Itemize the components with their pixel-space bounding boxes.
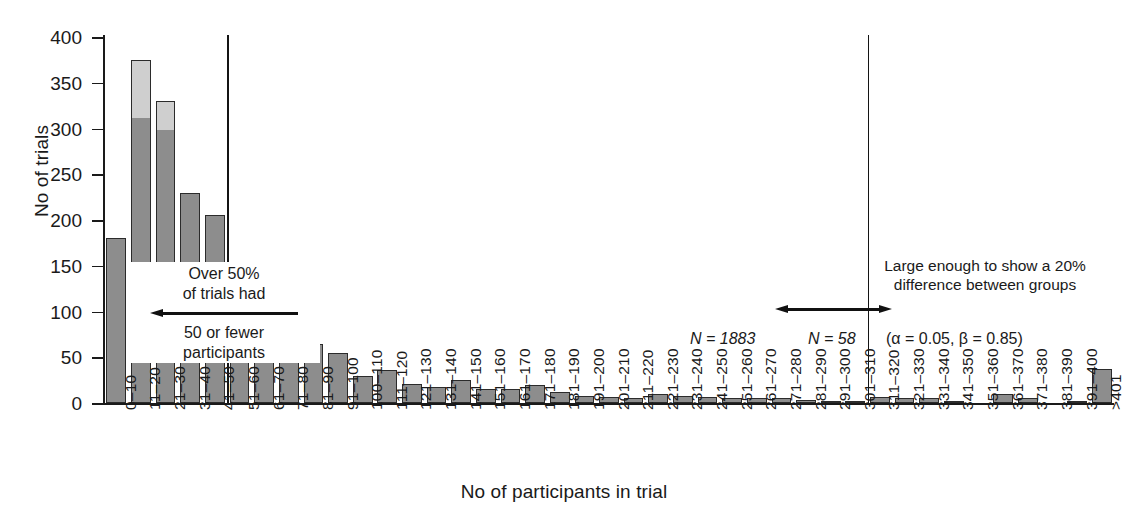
chart-figure: No of trials No of participants in trial…	[0, 0, 1128, 515]
y-tick-label-200: 200	[0, 211, 82, 230]
x-tick-label-271–280: 271–280	[787, 348, 805, 410]
left-sample-size-label: N = 1883	[690, 330, 755, 348]
x-tick-label-281–290: 281–290	[812, 348, 830, 410]
y-tick-200	[92, 220, 104, 222]
x-tick-label-11–20: 11–20	[146, 367, 164, 410]
bar-cap-11–20	[132, 61, 150, 118]
x-tick-label-301–310: 301–310	[861, 348, 879, 410]
y-tick-300	[92, 129, 104, 131]
x-tick-label-151–160: 151–160	[491, 348, 509, 410]
y-tick-400	[92, 37, 104, 39]
left-annotation-callout: Over 50% of trials had 50 or fewer parti…	[128, 262, 320, 363]
x-tick-label-131–140: 131–140	[442, 348, 460, 410]
y-tick-label-250: 250	[0, 165, 82, 184]
y-tick-50	[92, 357, 104, 359]
x-axis-title: No of participants in trial	[0, 481, 1128, 503]
x-tick-label-91–100: 91–100	[344, 357, 362, 410]
y-tick-label-100: 100	[0, 303, 82, 322]
x-tick-label-121–130: 121–130	[417, 348, 435, 410]
x-tick-label-371–380: 371–380	[1033, 348, 1051, 410]
x-tick-label-341–350: 341–350	[959, 348, 977, 410]
x-tick-label-201–210: 201–210	[615, 348, 633, 410]
x-tick-label-171–180: 171–180	[541, 348, 559, 410]
x-tick-label-391–400: 391–400	[1083, 348, 1101, 410]
right-range-arrow-icon	[808, 305, 892, 314]
arrow-shaft	[808, 308, 881, 311]
bar-cap-21–30	[157, 102, 175, 129]
y-tick-250	[92, 174, 104, 176]
arrow-shaft	[162, 312, 298, 315]
right-annotation-callout: Large enough to show a 20% difference be…	[845, 256, 1125, 294]
y-tick-100	[92, 312, 104, 314]
x-tick-label-351–360: 351–360	[984, 348, 1002, 410]
x-tick-label->401: >401	[1107, 374, 1125, 410]
x-tick-label-331–340: 331–340	[935, 348, 953, 410]
x-tick-label-231–240: 231–240	[688, 348, 706, 410]
x-tick-label-71–80: 71–80	[294, 366, 312, 410]
x-tick-label-191–200: 191–200	[590, 348, 608, 410]
y-tick-label-50: 50	[0, 348, 82, 367]
y-tick-label-300: 300	[0, 120, 82, 139]
x-tick-label-61–70: 61–70	[270, 366, 288, 410]
x-tick-label-381–390: 381–390	[1058, 348, 1076, 410]
x-tick-label-211–220: 211–220	[639, 349, 657, 410]
left-callout-line-2: of trials had	[183, 284, 266, 304]
x-tick-label-251–260: 251–260	[738, 348, 756, 410]
y-tick-150	[92, 266, 104, 268]
x-tick-label-181–190: 181–190	[565, 348, 583, 410]
power-parameters-label: (α = 0.05, β = 0.85)	[886, 330, 1023, 348]
x-tick-label-311–320: 311–320	[885, 349, 903, 410]
x-tick-label-221–230: 221–230	[664, 348, 682, 410]
x-tick-label-241–250: 241–250	[713, 348, 731, 410]
x-tick-label-51–60: 51–60	[245, 366, 263, 410]
x-tick-label-141–150: 141–150	[467, 348, 485, 410]
x-tick-label-291–300: 291–300	[836, 348, 854, 410]
y-tick-0	[92, 403, 104, 405]
x-tick-label-321–330: 321–330	[910, 348, 928, 410]
x-tick-label-0–10: 0–10	[122, 375, 140, 410]
left-callout-line-1: Over 50%	[188, 264, 259, 284]
right-sample-size-label: N = 58	[808, 330, 856, 348]
left-callout-arrow-row	[128, 304, 320, 323]
x-tick-label-261–270: 261–270	[762, 348, 780, 410]
right-callout-line-1: Large enough to show a 20%	[845, 256, 1125, 275]
x-tick-label-31–40: 31–40	[196, 366, 214, 410]
y-tick-350	[92, 83, 104, 85]
x-tick-label-361–370: 361–370	[1009, 348, 1027, 410]
y-tick-label-400: 400	[0, 28, 82, 47]
y-tick-label-150: 150	[0, 257, 82, 276]
left-callout-line-3: 50 or fewer	[184, 323, 264, 343]
x-tick-label-161–170: 161–170	[516, 348, 534, 410]
x-tick-label-100–110: 100–110	[368, 349, 386, 410]
y-tick-label-350: 350	[0, 74, 82, 93]
x-tick-label-111–120: 111–120	[393, 351, 411, 410]
right-callout-line-2: difference between groups	[845, 275, 1125, 294]
left-callout-line-4: participants	[183, 343, 265, 363]
x-tick-label-21–30: 21–30	[171, 366, 189, 410]
x-tick-label-81–90: 81–90	[319, 366, 337, 410]
x-tick-label-41–50: 41–50	[220, 366, 238, 410]
y-tick-label-0: 0	[0, 394, 82, 413]
left-pointing-arrow-icon	[150, 309, 298, 318]
